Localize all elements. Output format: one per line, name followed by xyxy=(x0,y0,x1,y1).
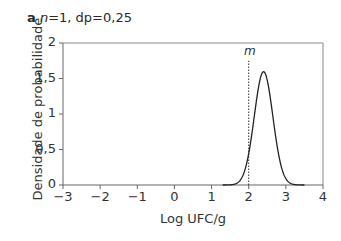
x-tick-label: 2 xyxy=(234,189,264,204)
x-tick-label: 0 xyxy=(159,189,189,204)
x-tick-label: 3 xyxy=(271,189,301,204)
x-axis-label: Log UFC/g xyxy=(143,211,243,226)
axes-frame xyxy=(63,43,323,185)
x-tick-label: 4 xyxy=(308,189,338,204)
x-tick-label: −2 xyxy=(85,189,115,204)
panel-params: =1, dp=0,25 xyxy=(48,10,132,25)
axis-ticks xyxy=(59,43,323,189)
mean-marker-label: m xyxy=(244,44,256,58)
density-curve xyxy=(223,72,305,185)
y-axis-label: Densidade de probabilidade xyxy=(30,31,45,201)
x-tick-label: 1 xyxy=(197,189,227,204)
x-tick-label: −3 xyxy=(48,189,78,204)
x-tick-label: −1 xyxy=(122,189,152,204)
